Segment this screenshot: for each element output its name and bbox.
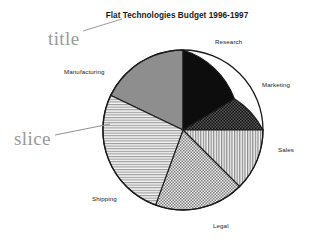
pie-label-sales: Sales [278, 146, 294, 153]
annotation-title-callout: title [48, 28, 80, 50]
annotation-slice-callout: slice [14, 128, 51, 150]
chart-title: Flat Technologies Budget 1996-1997 [0, 11, 312, 20]
pie-label-shipping: Shipping [92, 195, 117, 202]
pie-label-research: Research [215, 38, 242, 45]
pie-chart-graphic [0, 0, 312, 245]
pie-label-marketing: Marketing [262, 81, 290, 88]
slice-callout-line [55, 124, 110, 135]
pie-chart-figure: Flat Technologies Budget 1996-1997 Resea… [0, 0, 312, 245]
pie-label-manufacturing: Manufacturing [64, 68, 105, 75]
title-callout-line [83, 19, 122, 31]
pie-label-legal: Legal [213, 222, 229, 229]
